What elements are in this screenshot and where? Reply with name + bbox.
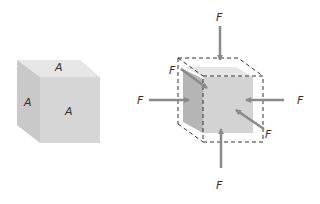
area-label-top: A xyxy=(54,61,63,74)
right-cube: F F F F F F xyxy=(137,11,304,192)
force-label-left: F xyxy=(137,94,144,107)
figure-canvas: A A A F F F F F F xyxy=(0,0,320,204)
left-cube: A A A xyxy=(17,60,100,143)
force-label-bottom: F xyxy=(216,179,223,192)
force-label-back: F xyxy=(169,64,176,77)
area-label-front: A xyxy=(64,105,73,118)
force-label-top: F xyxy=(216,11,223,24)
area-label-left: A xyxy=(23,96,32,109)
compressed-front-face xyxy=(203,77,253,133)
force-label-right: F xyxy=(297,94,304,107)
force-label-front: F xyxy=(265,128,272,141)
